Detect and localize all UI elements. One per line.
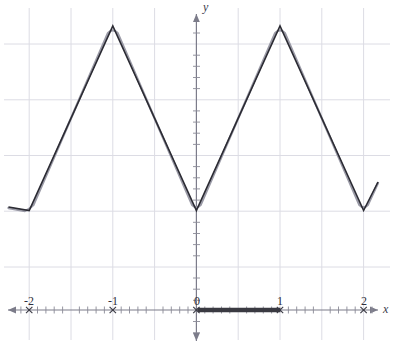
x-tick-label-minus-2: -2	[19, 294, 39, 309]
x-tick-label-zero: 0	[187, 294, 207, 309]
series-triangle-wave-exact	[9, 26, 379, 211]
y-axis-arrow-down	[193, 333, 200, 341]
y-axis-arrow-up	[193, 14, 200, 22]
y-axis-label: y	[203, 0, 208, 15]
x-tick-label-one: 1	[270, 294, 290, 309]
grid-lines	[4, 8, 390, 340]
x-tick-label-minus-1: -1	[103, 294, 123, 309]
x-axis-arrow-left	[8, 307, 16, 314]
x-axis-label: x	[383, 302, 388, 317]
chart-canvas: -2 -1 0 1 2 x y	[0, 0, 399, 350]
x-tick-label-two: 2	[354, 294, 374, 309]
